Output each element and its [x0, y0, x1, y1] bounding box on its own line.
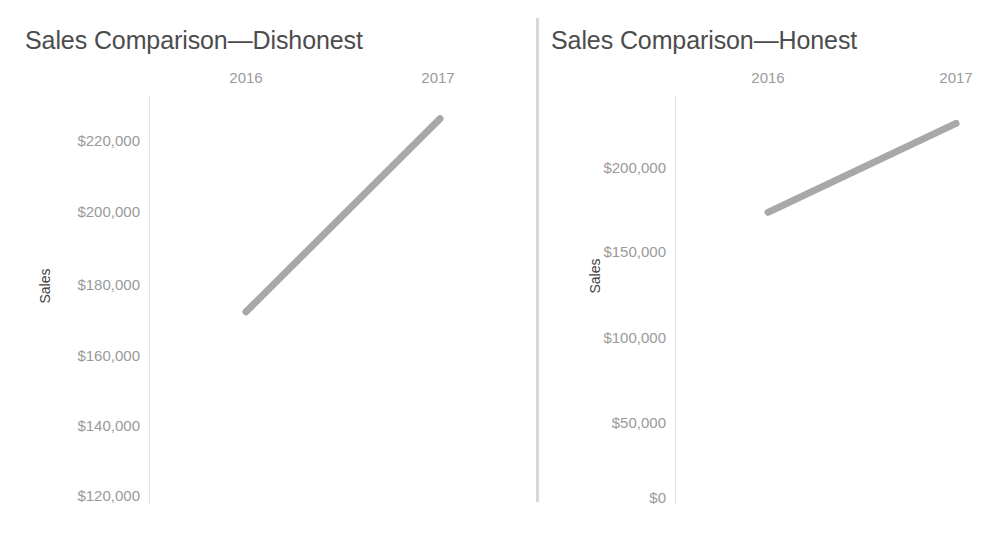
y-tick-label-200000: $200,000	[603, 159, 666, 176]
chart-panel-dishonest: Sales Comparison—Dishonest Sales 2016 20…	[0, 0, 520, 546]
y-axis-title-dishonest: Sales	[37, 267, 53, 305]
x-tick-label-2016-dishonest: 2016	[229, 69, 262, 86]
x-tick-label-2016-honest: 2016	[751, 69, 784, 86]
panel-divider	[536, 18, 539, 502]
chart-panel-honest: Sales Comparison—Honest Sales 2016 2017 …	[540, 0, 1003, 546]
series-line-dishonest	[149, 96, 514, 504]
x-tick-label-2017-dishonest: 2017	[421, 69, 454, 86]
y-axis-title-honest: Sales	[587, 257, 603, 295]
y-tick-label-140000: $140,000	[77, 417, 140, 434]
chart-title-dishonest: Sales Comparison—Dishonest	[25, 26, 363, 55]
slide-canvas: Sales Comparison—Dishonest Sales 2016 20…	[0, 0, 1003, 546]
y-tick-label-150000: $150,000	[603, 243, 666, 260]
plot-area-dishonest: 2016 2017 $220,000 $200,000 $180,000 $16…	[149, 96, 514, 504]
chart-title-honest: Sales Comparison—Honest	[551, 26, 857, 55]
y-tick-label-200000: $200,000	[77, 203, 140, 220]
y-tick-label-160000: $160,000	[77, 347, 140, 364]
y-tick-label-120000: $120,000	[77, 487, 140, 504]
y-tick-label-220000: $220,000	[77, 132, 140, 149]
y-tick-label-180000: $180,000	[77, 276, 140, 293]
y-tick-label-100000: $100,000	[603, 329, 666, 346]
x-tick-label-2017-honest: 2017	[939, 69, 972, 86]
y-tick-label-0: $0	[649, 489, 666, 506]
y-tick-label-50000: $50,000	[612, 414, 666, 431]
plot-area-honest: 2016 2017 $200,000 $150,000 $100,000 $50…	[675, 96, 997, 504]
series-line-honest	[675, 96, 997, 504]
